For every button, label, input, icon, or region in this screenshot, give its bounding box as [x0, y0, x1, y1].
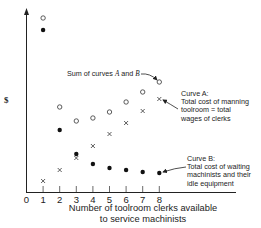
sum-arrow [141, 74, 157, 80]
y-axis-label: $ [4, 95, 9, 105]
curve-a-x-marker-icon [41, 179, 45, 183]
x-axis-label-line2: to service machinists [43, 214, 243, 225]
curve-b-dot-marker-icon [58, 128, 62, 132]
curve-a-x-marker-icon [91, 144, 95, 148]
curve-b-dot-marker-icon [74, 152, 78, 156]
curve-a-x-marker-icon [108, 132, 112, 136]
sum-open-circle-marker-icon [141, 90, 145, 94]
curve-a-x-marker-icon [74, 156, 78, 160]
sum-open-circle-marker-icon [157, 80, 161, 84]
y-axis-arrow-icon [24, 8, 29, 15]
curve-b-arrow [163, 167, 186, 172]
curve-b-dot-marker-icon [91, 162, 95, 166]
curve-b-dot-marker-icon [107, 166, 111, 170]
sum-open-circle-marker-icon [74, 119, 78, 123]
data-points [41, 16, 162, 183]
curve-b-dot-marker-icon [124, 168, 128, 172]
x-axis-label: Number of toolroom clerks available to s… [43, 203, 243, 225]
sum-open-circle-marker-icon [58, 105, 62, 109]
curve-b-annotation: Curve B: Total cost of waiting machinist… [187, 155, 251, 188]
sum-annotation: Sum of curves A and B [67, 70, 140, 78]
curve-a-x-marker-icon [58, 168, 62, 172]
x-tick-label: 0 [24, 194, 29, 205]
curve-a-x-marker-icon [141, 109, 145, 113]
sum-open-circle-marker-icon [124, 100, 128, 104]
curve-a-x-marker-icon [157, 97, 161, 101]
sum-open-circle-marker-icon [107, 110, 111, 114]
curve-b-dot-marker-icon [157, 171, 161, 175]
x-axis-ticks [43, 186, 159, 192]
sum-open-circle-marker-icon [91, 116, 95, 120]
curve-b-dot-marker-icon [41, 28, 45, 32]
sum-open-circle-marker-icon [41, 16, 45, 20]
x-axis-label-line1: Number of toolroom clerks available [43, 203, 243, 214]
curve-a-annotation: Curve A: Total cost of manning toolroom … [181, 90, 249, 123]
curve-a-x-marker-icon [124, 121, 128, 125]
curve-b-dot-marker-icon [141, 170, 145, 174]
curve-a-arrow [163, 100, 178, 109]
